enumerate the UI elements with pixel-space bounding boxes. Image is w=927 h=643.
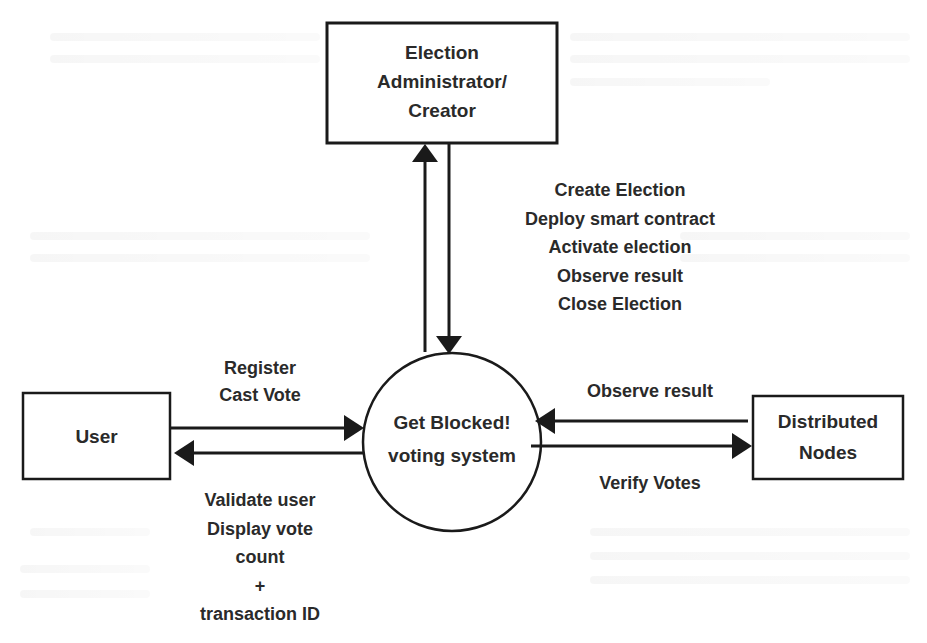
flow-user-line-2: Cast Vote: [180, 382, 340, 409]
system-label-line-1: Get Blocked!: [363, 406, 541, 439]
distributed-nodes-label-line-2: Nodes: [753, 437, 903, 468]
flow-user-return-line-2: Display vote: [180, 515, 340, 544]
admin-label-line-2: Administrator/: [327, 67, 557, 96]
flow-nodes-line-1: Observe result: [560, 380, 740, 402]
flow-label-system-to-user: Validate user Display vote count + trans…: [180, 486, 340, 629]
distributed-nodes-label-line-1: Distributed: [753, 406, 903, 437]
flow-admin-line-5: Close Election: [490, 290, 750, 319]
flow-label-system-to-nodes: Verify Votes: [560, 472, 740, 494]
user-label: User: [23, 422, 170, 451]
arrow-system-to-nodes: [531, 433, 752, 459]
flow-label-user-to-system: Register Cast Vote: [180, 355, 340, 409]
arrow-admin-to-system: [436, 143, 462, 354]
flow-admin-line-2: Deploy smart contract: [490, 205, 750, 234]
distributed-nodes-label: Distributed Nodes: [753, 406, 903, 468]
flow-user-return-line-3: count: [180, 543, 340, 572]
flow-label-nodes-to-system: Observe result: [560, 380, 740, 402]
admin-label-line-3: Creator: [327, 96, 557, 125]
admin-label: Election Administrator/ Creator: [327, 38, 557, 125]
flow-label-admin-to-system: Create Election Deploy smart contract Ac…: [490, 176, 750, 319]
flow-user-return-line-5: transaction ID: [180, 600, 340, 629]
flow-user-return-line-4: +: [180, 572, 340, 601]
arrow-system-to-user: [174, 440, 364, 466]
arrow-user-to-system: [170, 415, 364, 441]
flow-user-return-line-1: Validate user: [180, 486, 340, 515]
flow-admin-line-4: Observe result: [490, 262, 750, 291]
user-label-line-1: User: [23, 422, 170, 451]
system-label: Get Blocked! voting system: [363, 406, 541, 472]
flow-admin-line-1: Create Election: [490, 176, 750, 205]
flow-verify-line-1: Verify Votes: [560, 472, 740, 494]
system-label-line-2: voting system: [363, 439, 541, 472]
arrow-system-to-admin: [412, 144, 438, 352]
admin-label-line-1: Election: [327, 38, 557, 67]
arrow-nodes-to-system: [535, 408, 748, 434]
flow-user-line-1: Register: [180, 355, 340, 382]
flow-admin-line-3: Activate election: [490, 233, 750, 262]
